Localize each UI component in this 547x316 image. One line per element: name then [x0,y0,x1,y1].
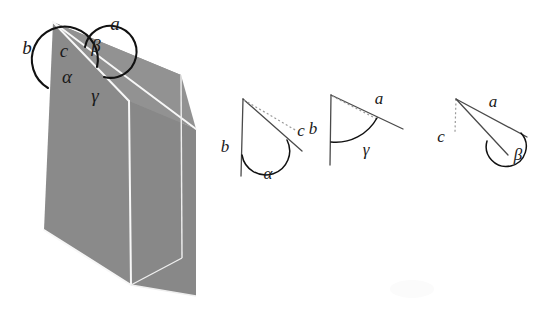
scan-artifact [390,280,434,298]
label-ray-a: a [489,92,498,111]
solid-face-lower-right [129,101,196,296]
figure-canvas: a b c β α γ b c α b a γ [0,0,547,316]
label-edge-c: c [60,40,69,61]
trihedral-angle-diagram: a b c β α γ b c α b a γ [0,0,547,316]
label-ray-b: b [309,119,318,138]
label-ray-c: c [437,127,445,146]
label-angle-alpha: α [264,164,274,183]
label-ray-a: a [375,89,384,108]
label-angle-beta: β [513,145,523,164]
label-edge-a: a [110,13,120,34]
label-ray-c: c [297,121,305,140]
label-angle-alpha: α [62,66,73,87]
label-ray-b: b [221,137,230,156]
label-edge-b: b [22,37,32,58]
label-angle-gamma: γ [91,85,99,106]
edge-line-crease-right [181,75,182,258]
label-angle-beta: β [90,35,101,56]
